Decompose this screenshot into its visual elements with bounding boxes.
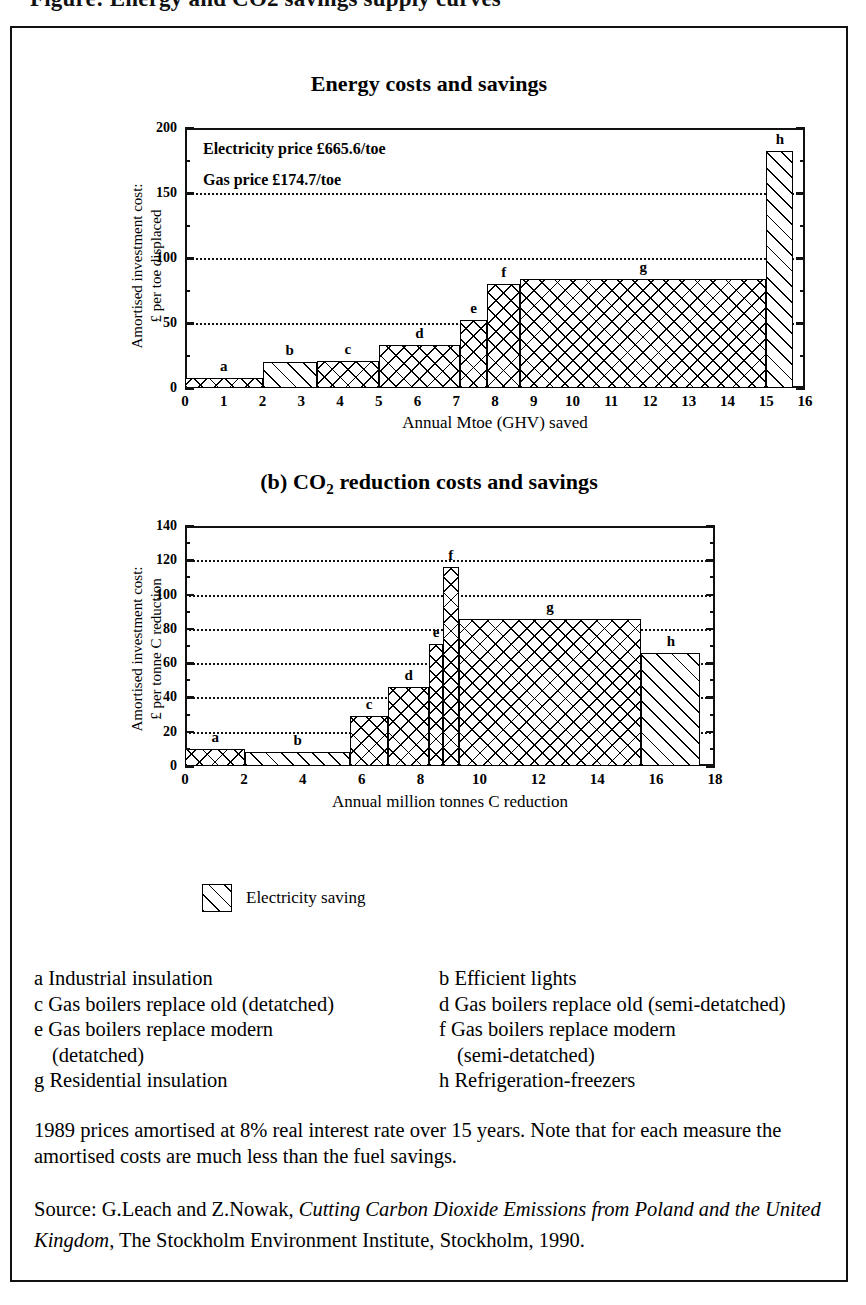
bar-label-e: e — [470, 300, 477, 317]
chart-b-ylabel-line1: Amortised investment cost: — [129, 509, 146, 789]
y-tick-mark — [185, 662, 194, 665]
y-tick-mark — [185, 628, 194, 631]
y-tick-mark-right — [706, 696, 715, 699]
y-tick-mark-right — [706, 765, 715, 768]
y-tick-mark — [185, 322, 194, 325]
y-tick-mark-right — [796, 322, 805, 325]
bar-label-b: b — [285, 342, 293, 359]
bar-e — [429, 644, 442, 766]
key-item-f-cont: (semi-detatched) — [439, 1043, 844, 1069]
y-tick-mark — [185, 127, 194, 130]
y-tick-mark — [185, 257, 194, 260]
chart-annotation: Electricity price £665.6/toe — [203, 140, 386, 158]
bar-label-g: g — [546, 599, 554, 616]
bar-a — [185, 749, 245, 766]
y-minor-tick-mark — [710, 679, 715, 681]
y-minor-tick-mark — [185, 355, 190, 357]
y-minor-tick-mark — [710, 645, 715, 647]
x-tick-label: 6 — [414, 393, 422, 410]
note-paragraph: 1989 prices amortised at 8% real interes… — [34, 1117, 846, 1169]
key-row: g Residential insulation h Refrigeration… — [34, 1068, 844, 1094]
y-tick-mark-right — [706, 628, 715, 631]
bar-d — [379, 345, 460, 388]
y-tick-label: 100 — [156, 587, 177, 603]
chart-b-title: (b) CO2 reduction costs and savings — [12, 469, 846, 498]
key-item-b: b Efficient lights — [439, 966, 844, 992]
key-item-e-cont: (detatched) — [34, 1043, 439, 1069]
bar-label-d: d — [415, 325, 423, 342]
x-tick-label: 2 — [240, 771, 248, 788]
x-tick-label: 4 — [336, 393, 344, 410]
chart-b: Amortised investment cost: £ per tonne C… — [12, 504, 850, 824]
source-suffix: , The Stockholm Environment Institute, — [109, 1229, 434, 1251]
key-list: a Industrial insulation b Efficient ligh… — [34, 966, 844, 1094]
y-tick-label: 100 — [156, 250, 177, 266]
x-tick-label: 1 — [220, 393, 228, 410]
bar-label-f: f — [448, 547, 453, 564]
y-tick-mark-right — [706, 525, 715, 528]
key-row: c Gas boilers replace old (detatched) d … — [34, 992, 844, 1018]
x-tick-label: 12 — [531, 771, 546, 788]
x-tick-label: 14 — [590, 771, 605, 788]
gridline — [185, 193, 805, 195]
bar-c — [317, 361, 379, 388]
y-minor-tick-mark — [800, 160, 805, 162]
y-minor-tick-mark — [185, 576, 190, 578]
y-minor-tick-mark — [185, 160, 190, 162]
bar-a — [185, 378, 263, 388]
y-minor-tick-mark — [185, 611, 190, 613]
y-minor-tick-mark — [710, 542, 715, 544]
bar-label-e: e — [433, 624, 440, 641]
chart-b-xlabel: Annual million tonnes C reduction — [185, 792, 715, 812]
y-minor-tick-mark — [185, 225, 190, 227]
y-tick-mark-right — [796, 257, 805, 260]
bar-label-h: h — [776, 131, 784, 148]
x-tick-label: 11 — [604, 393, 618, 410]
y-tick-mark — [185, 731, 194, 734]
bar-label-b: b — [293, 732, 301, 749]
x-tick-label: 12 — [643, 393, 658, 410]
key-row: e Gas boilers replace modern f Gas boile… — [34, 1017, 844, 1043]
key-item-c: c Gas boilers replace old (detatched) — [34, 992, 439, 1018]
y-tick-label: 140 — [156, 518, 177, 534]
source-note: Source: G.Leach and Z.Nowak, Cutting Car… — [34, 1194, 846, 1256]
y-tick-label: 0 — [170, 380, 177, 396]
key-item-g: g Residential insulation — [34, 1068, 439, 1094]
bar-h — [766, 151, 793, 388]
electricity-saving-swatch-icon — [202, 884, 232, 912]
x-tick-label: 13 — [681, 393, 696, 410]
x-tick-label: 6 — [358, 771, 366, 788]
y-minor-tick-mark — [710, 611, 715, 613]
chart-a-title: Energy costs and savings — [12, 71, 846, 97]
key-item-a: a Industrial insulation — [34, 966, 439, 992]
y-tick-label: 60 — [163, 655, 177, 671]
source-tail: Stockholm, 1990. — [440, 1229, 585, 1251]
y-minor-tick-mark — [710, 748, 715, 750]
chart-b-title-pre: (b) CO — [260, 469, 326, 494]
key-item-e: e Gas boilers replace modern — [34, 1017, 439, 1043]
bar-h — [641, 653, 700, 766]
y-tick-label: 40 — [163, 689, 177, 705]
y-tick-mark — [185, 559, 194, 562]
x-tick-label: 14 — [720, 393, 735, 410]
bar-label-c: c — [366, 696, 373, 713]
key-row: (detatched) (semi-detatched) — [34, 1043, 844, 1069]
y-tick-mark-right — [706, 662, 715, 665]
x-tick-label: 0 — [181, 771, 189, 788]
figure-frame: Energy costs and savings Amortised inves… — [10, 26, 848, 1282]
bar-label-a: a — [220, 358, 228, 375]
bar-f — [443, 567, 459, 766]
x-tick-label: 16 — [649, 771, 664, 788]
bar-g — [520, 279, 766, 388]
chart-b-title-post: reduction costs and savings — [334, 469, 598, 494]
x-tick-label: 7 — [453, 393, 461, 410]
y-minor-tick-mark — [185, 714, 190, 716]
x-tick-label: 9 — [530, 393, 538, 410]
chart-a-xlabel: Annual Mtoe (GHV) saved — [185, 413, 805, 433]
y-tick-label: 120 — [156, 552, 177, 568]
x-tick-label: 10 — [565, 393, 580, 410]
y-tick-label: 80 — [163, 621, 177, 637]
y-tick-mark — [185, 765, 194, 768]
y-minor-tick-mark — [800, 225, 805, 227]
chart-a: Amortised investment cost: £ per toe dis… — [12, 106, 850, 426]
